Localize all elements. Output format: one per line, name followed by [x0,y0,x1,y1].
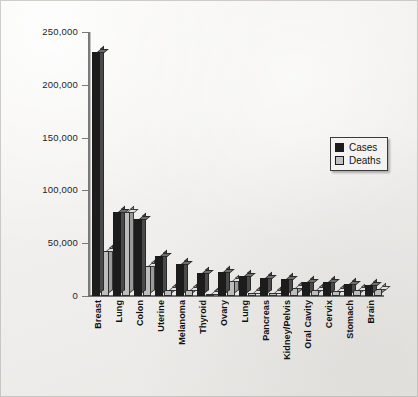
bar-group [239,32,260,296]
bar-face [365,285,373,296]
x-axis-category-label: Stomach [346,300,355,339]
y-axis-tick-mark [82,85,88,86]
y-axis-tick-mark [82,190,88,191]
bar-cases [365,285,373,296]
bar-cases [113,212,121,296]
y-axis-tick-label: 50,000 [16,238,78,248]
bar-group [302,32,323,296]
bar-side-face [121,205,125,293]
x-axis-category-label: Oral Cavity [304,300,313,349]
bar-face [134,219,142,296]
bar-cases [155,256,163,296]
bar-face [218,272,226,296]
bar-face [239,276,247,296]
y-axis-tick-label: 0 [16,291,78,301]
bar-group [113,32,134,296]
bar-face [281,279,289,296]
bar-group [260,32,281,296]
bar-group [155,32,176,296]
bar-cases [239,276,247,296]
bar-face [323,282,331,296]
bar-group [176,32,197,296]
y-axis-tick-label: 100,000 [16,185,78,195]
x-axis-category-label: Pancreas [262,300,271,341]
bar-face [176,264,184,296]
bar-face [197,273,205,296]
x-axis-category-label: Melanoma [178,300,187,345]
bar-deaths [248,293,256,296]
y-axis-tick-mark [82,138,88,139]
legend-swatch-deaths-icon [335,156,344,165]
x-axis-category-label: Ovary [220,300,229,326]
y-axis-tick-mark [82,243,88,244]
bar-face [344,284,352,296]
x-axis-category-label: Lung [241,300,250,322]
x-axis-category-label: Lung [115,300,124,322]
bar-side-face [142,213,146,293]
bar-side-face [100,46,104,293]
legend-label-deaths: Deaths [349,155,381,166]
y-axis-tick-label: 150,000 [16,133,78,143]
bar-face [113,212,121,296]
legend: Cases Deaths [330,137,388,171]
x-axis-category-label: Thyroid [199,300,208,334]
bar-face [269,293,277,296]
bar-group [197,32,218,296]
bar-cases [344,284,352,296]
bar-face [302,282,310,296]
bar-group [92,32,113,296]
bar-chart: 050,000100,000150,000200,000250,000 Brea… [0,0,418,397]
legend-item-deaths: Deaths [335,154,381,167]
y-axis-tick-label: 250,000 [16,27,78,37]
y-axis-tick-mark [82,296,88,297]
bar-cases [92,52,100,296]
x-axis-category-label: Uterine [157,300,166,332]
bar-face [332,291,340,296]
x-axis-category-label: Brain [367,300,376,324]
bar-cases [134,219,142,296]
bar-face [92,52,100,296]
bar-cases [197,273,205,296]
bar-face [248,293,256,296]
x-axis-category-label: Colon [136,300,145,326]
bar-group [218,32,239,296]
bar-deaths [269,293,277,296]
bar-cases [218,272,226,296]
legend-label-cases: Cases [349,142,377,153]
bar-cases [260,278,268,296]
bar-deaths [206,294,214,296]
bar-cases [281,279,289,296]
x-axis-category-label: Cervix [325,300,334,328]
x-axis-category-label: Breast [94,300,103,329]
x-axis-category-label: Kidney/Pelvis [283,300,292,360]
bar-face [206,294,214,296]
chart-figure: 050,000100,000150,000200,000250,000 Brea… [0,0,418,397]
bar-cases [176,264,184,296]
y-axis-tick-mark [82,32,88,33]
bar-cases [323,282,331,296]
y-axis-tick-label: 200,000 [16,80,78,90]
bar-face [155,256,163,296]
legend-swatch-cases-icon [335,143,344,152]
bar-group [134,32,155,296]
legend-item-cases: Cases [335,141,381,154]
bar-cases [302,282,310,296]
bar-side-face [130,205,134,293]
bar-deaths [332,291,340,296]
bar-group [281,32,302,296]
bar-face [260,278,268,296]
